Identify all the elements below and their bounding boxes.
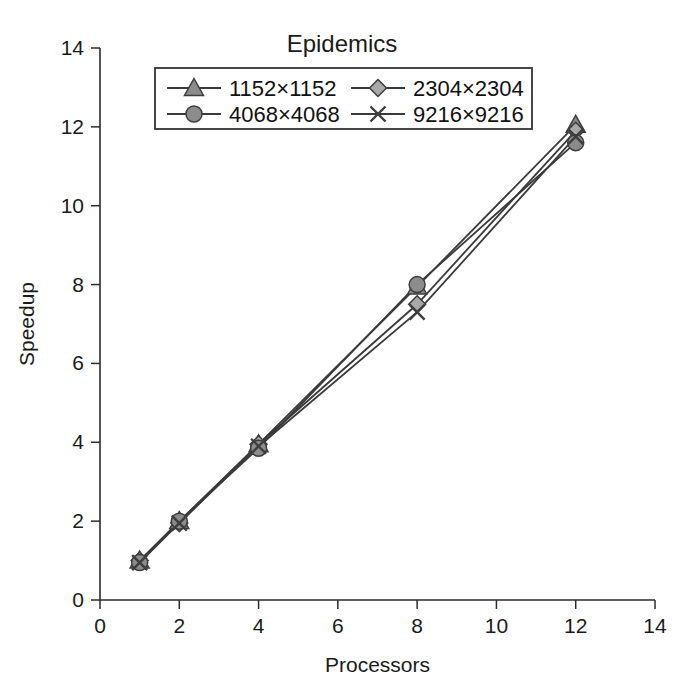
x-tick-label: 6 [332,614,344,637]
series-line-4068-4068 [140,143,576,563]
x-tick-label: 14 [643,614,667,637]
y-tick-label: 14 [61,36,85,59]
data-point-marker-circle [171,513,187,529]
x-tick-label: 4 [253,614,265,637]
y-tick-label: 2 [72,509,84,532]
legend-marker-circle [186,106,202,122]
x-tick-label: 0 [94,614,106,637]
data-point-marker-circle [251,440,267,456]
x-tick-label: 2 [173,614,185,637]
legend-label: 2304×2304 [413,76,524,101]
legend-label: 1152×1152 [229,76,336,101]
chart-canvas: 0246810121402468101214ProcessorsSpeedupE… [0,0,698,696]
legend-label: 4068×4068 [229,102,340,127]
x-tick-label: 10 [485,614,508,637]
y-tick-label: 0 [72,588,84,611]
x-tick-label: 8 [411,614,423,637]
y-tick-label: 4 [72,430,84,453]
chart-title: Epidemics [287,30,398,57]
y-axis-title: Speedup [15,282,38,366]
y-tick-label: 12 [61,115,84,138]
y-tick-label: 6 [72,351,84,374]
series-line-1152-1152 [140,125,576,561]
x-tick-label: 12 [564,614,587,637]
y-tick-label: 8 [72,273,84,296]
x-axis-title: Processors [325,653,430,676]
y-tick-label: 10 [61,194,84,217]
speedup-line-chart: 0246810121402468101214ProcessorsSpeedupE… [0,0,698,696]
data-point-marker-circle [409,277,425,293]
legend-label: 9216×9216 [413,102,524,127]
